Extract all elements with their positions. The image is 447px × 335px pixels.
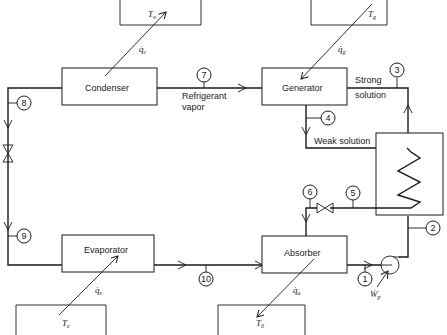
absorber-box: Absorber — [262, 236, 347, 273]
label-strong: Strong — [355, 75, 382, 85]
heat-flow-condenser: q̇c — [105, 12, 166, 76]
svg-text:q̇c: q̇c — [139, 44, 147, 55]
svg-text:q̇e: q̇e — [95, 285, 103, 296]
generator-box: Generator — [262, 68, 347, 105]
pump-icon — [381, 256, 400, 274]
svg-text:7: 7 — [201, 70, 206, 80]
reservoir-bottom-left: Te — [16, 305, 106, 335]
svg-text:q̇a: q̇a — [293, 285, 301, 296]
svg-text:To: To — [148, 9, 156, 20]
label-vapor: vapor — [182, 102, 205, 112]
svg-text:Condenser: Condenser — [85, 83, 129, 93]
state-point-4: 4 — [306, 111, 335, 125]
line-condenser-to-evaporator — [8, 88, 62, 265]
state-point-5: 5 — [346, 186, 360, 208]
state-point-10: 10 — [199, 265, 213, 286]
svg-text:10: 10 — [201, 274, 211, 284]
svg-text:6: 6 — [307, 187, 312, 197]
svg-text:Evaporator: Evaporator — [84, 245, 128, 255]
svg-text:q̇g: q̇g — [338, 44, 346, 55]
svg-text:2: 2 — [430, 223, 435, 233]
reservoir-top-left: To — [120, 0, 201, 25]
svg-text:9: 9 — [21, 231, 26, 241]
state-point-3: 3 — [390, 63, 404, 88]
pump-work: Ẇp — [370, 271, 388, 300]
reservoir-top-right: Tg — [311, 0, 387, 25]
label-refrigerant: Refrigerant — [182, 91, 227, 101]
svg-text:5: 5 — [350, 188, 355, 198]
heat-exchanger — [376, 133, 443, 215]
state-point-9: 9 — [8, 229, 31, 243]
svg-text:Generator: Generator — [282, 83, 323, 93]
svg-text:8: 8 — [21, 98, 26, 108]
state-point-1: 1 — [358, 265, 372, 286]
svg-text:3: 3 — [394, 65, 399, 75]
svg-text:Ẇp: Ẇp — [370, 289, 381, 300]
label-weak-solution: Weak solution — [314, 136, 370, 146]
state-point-7: 7 — [197, 68, 211, 88]
svg-text:Tg: Tg — [368, 9, 376, 20]
svg-text:Absorber: Absorber — [284, 248, 321, 258]
state-point-8: 8 — [8, 96, 31, 110]
label-solution: solution — [355, 90, 386, 100]
svg-text:4: 4 — [325, 113, 330, 123]
line-to-absorber — [306, 208, 317, 236]
line-pump-to-heat-exchanger — [399, 216, 408, 257]
svg-text:1: 1 — [362, 274, 367, 284]
svg-text:T0: T0 — [256, 318, 264, 329]
absorption-cycle-diagram: To Tg Te T0 — [0, 0, 447, 335]
state-point-2: 2 — [408, 221, 440, 235]
state-point-6: 6 — [303, 185, 317, 208]
condenser-box: Condenser — [62, 68, 157, 105]
reservoir-bottom-right: T0 — [218, 305, 305, 335]
svg-text:Te: Te — [62, 318, 70, 329]
